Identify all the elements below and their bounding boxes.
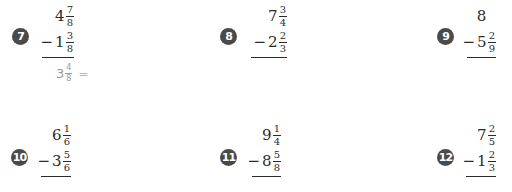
minuend: 7 34 bbox=[251, 3, 287, 29]
answer-line bbox=[42, 57, 74, 58]
answer-field[interactable]: 3 48 = bbox=[56, 64, 88, 83]
subtrahend: − 5 29 bbox=[467, 29, 496, 55]
fraction: 25 bbox=[488, 124, 496, 147]
problem-number-badge: 8 bbox=[220, 28, 237, 45]
problem-12: 7 25 − 1 23 bbox=[466, 122, 496, 177]
subtrahend: − 2 23 bbox=[251, 29, 287, 55]
problem-11: 9 14 − 8 58 bbox=[252, 122, 281, 177]
fraction: 14 bbox=[273, 124, 281, 147]
fraction: 23 bbox=[488, 150, 496, 173]
subtrahend: − 8 58 bbox=[252, 148, 281, 174]
minuend: 4 78 bbox=[42, 3, 74, 29]
problem-7: 4 78 − 1 38 bbox=[42, 3, 74, 58]
problem-10: 6 16 − 3 56 bbox=[41, 122, 71, 177]
answer-line bbox=[252, 176, 281, 177]
minuend: 9 14 bbox=[252, 122, 281, 148]
fraction: 48 bbox=[65, 64, 72, 83]
fraction: 56 bbox=[63, 150, 71, 173]
whole-number: 4 bbox=[55, 9, 65, 24]
problem-9: 8 − 5 29 bbox=[467, 3, 496, 58]
fraction: 78 bbox=[66, 5, 74, 28]
problem-number-badge: 7 bbox=[12, 28, 29, 45]
answer-line bbox=[41, 176, 71, 177]
fraction: 29 bbox=[488, 31, 496, 54]
problem-number-badge: 9 bbox=[437, 28, 454, 45]
fraction: 23 bbox=[279, 31, 287, 54]
fraction: 34 bbox=[279, 5, 287, 28]
minuend: 8 bbox=[467, 3, 496, 29]
problem-number-badge: 10 bbox=[11, 149, 28, 166]
answer-line bbox=[251, 57, 287, 58]
fraction: 38 bbox=[66, 31, 74, 54]
subtrahend: − 1 38 bbox=[42, 29, 74, 55]
fraction: 58 bbox=[273, 150, 281, 173]
fraction: 16 bbox=[63, 124, 71, 147]
answer-line bbox=[467, 57, 496, 58]
minuend: 6 16 bbox=[41, 122, 71, 148]
subtrahend: − 1 23 bbox=[466, 148, 496, 174]
problem-number-badge: 11 bbox=[220, 149, 237, 166]
problem-8: 7 34 − 2 23 bbox=[251, 3, 287, 58]
subtrahend: − 3 56 bbox=[41, 148, 71, 174]
problem-number-badge: 12 bbox=[437, 149, 454, 166]
minuend: 7 25 bbox=[466, 122, 496, 148]
answer-line bbox=[466, 176, 496, 177]
